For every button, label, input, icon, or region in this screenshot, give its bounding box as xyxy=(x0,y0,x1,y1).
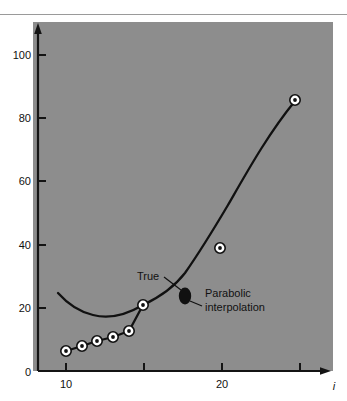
plot-background xyxy=(33,22,333,371)
annotation-parabolic-label-line1: Parabolic xyxy=(205,287,251,299)
y-tick-label-100: 100 xyxy=(13,49,31,61)
y-tick-label-60: 60 xyxy=(19,175,31,187)
annotation-parabolic-label-line2: interpolation xyxy=(205,301,265,313)
data-marker xyxy=(215,243,225,253)
x-tick-label-20: 20 xyxy=(216,378,228,390)
data-marker xyxy=(61,346,71,356)
data-marker xyxy=(108,332,118,342)
y-tick-label-20: 20 xyxy=(19,302,31,314)
x-axis-label: i xyxy=(333,380,336,392)
figure-container: 100 80 60 40 20 0 10 20 i xyxy=(0,0,347,401)
y-tick-label-40: 40 xyxy=(19,239,31,251)
data-marker xyxy=(77,341,87,351)
data-marker xyxy=(92,336,102,346)
annotation-true-label: True xyxy=(137,270,159,282)
data-marker xyxy=(124,326,134,336)
data-marker xyxy=(290,95,300,105)
y-tick-label-0: 0 xyxy=(25,366,31,378)
x-tick-label-10: 10 xyxy=(60,378,72,390)
data-marker xyxy=(138,300,148,310)
parabolic-interpolation-chart: 100 80 60 40 20 0 10 20 i xyxy=(0,0,347,401)
y-tick-label-80: 80 xyxy=(19,112,31,124)
